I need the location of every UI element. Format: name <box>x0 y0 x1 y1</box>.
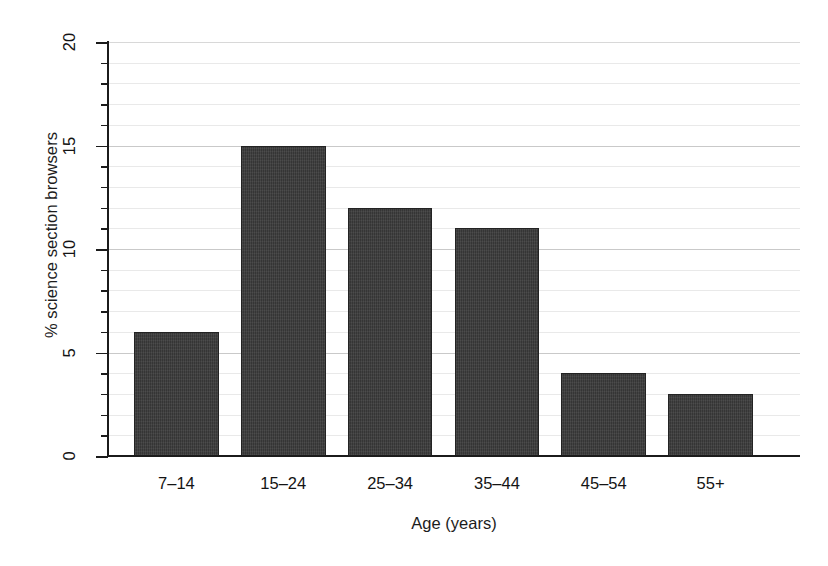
y-axis-tick-label: 15 <box>59 123 79 169</box>
x-axis-tick-label: 7–14 <box>134 472 219 494</box>
x-axis-title: Age (years) <box>108 514 800 533</box>
y-axis-minor-tick <box>101 435 108 437</box>
y-axis-minor-tick <box>101 166 108 168</box>
y-axis-minor-tick <box>101 104 108 106</box>
gridline <box>108 146 800 147</box>
x-axis-line <box>107 455 800 457</box>
bar <box>241 146 326 457</box>
gridline <box>108 63 800 64</box>
x-axis-tick-label: 35–44 <box>455 472 540 494</box>
x-axis-tick-label: 45–54 <box>561 472 646 494</box>
bar <box>561 373 646 456</box>
gridline <box>108 83 800 84</box>
y-axis-minor-tick <box>101 228 108 230</box>
bar <box>134 332 219 456</box>
y-axis-minor-tick <box>101 63 108 65</box>
gridline <box>108 104 800 105</box>
x-axis-tick-label: 25–34 <box>348 472 433 494</box>
y-axis-tick-label: 0 <box>59 433 79 479</box>
y-axis-minor-tick <box>101 311 108 313</box>
y-axis-minor-tick <box>101 270 108 272</box>
y-axis-major-tick <box>96 249 108 251</box>
gridline <box>108 208 800 209</box>
y-axis-minor-tick <box>101 125 108 127</box>
bar <box>668 394 753 456</box>
y-axis-tick-label: 10 <box>59 226 79 272</box>
y-axis-minor-tick <box>101 373 108 375</box>
gridline <box>108 187 800 188</box>
y-axis-major-tick <box>96 146 108 148</box>
y-axis-tick-label: 5 <box>59 330 79 376</box>
y-axis-minor-tick <box>101 83 108 85</box>
y-axis-minor-tick <box>101 394 108 396</box>
y-axis-minor-tick <box>101 290 108 292</box>
y-axis-major-tick <box>96 353 108 355</box>
plot-area <box>108 42 800 456</box>
gridline <box>108 125 800 126</box>
gridline <box>108 42 800 43</box>
y-axis-major-tick <box>96 42 108 44</box>
y-axis-minor-tick <box>101 332 108 334</box>
y-axis-minor-tick <box>101 187 108 189</box>
y-axis-tick-label: 20 <box>59 19 79 65</box>
x-axis-tick-label: 15–24 <box>241 472 326 494</box>
bar <box>348 208 433 456</box>
y-axis-minor-tick <box>101 415 108 417</box>
y-axis-major-tick <box>96 456 108 458</box>
x-axis-tick-label: 55+ <box>668 472 753 494</box>
y-axis-minor-tick <box>101 208 108 210</box>
bar <box>455 228 540 456</box>
gridline <box>108 166 800 167</box>
bar-chart: % science section browsers Age (years) 0… <box>0 0 828 566</box>
